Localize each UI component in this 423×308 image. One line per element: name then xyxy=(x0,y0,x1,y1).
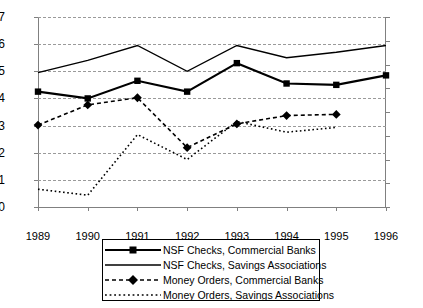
data-point-marker xyxy=(83,100,92,109)
data-point-marker xyxy=(283,80,289,86)
x-axis-label: 1996 xyxy=(363,230,409,242)
y-axis-left-label: 13 xyxy=(0,120,5,132)
data-point-marker xyxy=(35,88,41,94)
y-axis-left-label: 16 xyxy=(0,38,5,50)
data-point-marker xyxy=(282,111,291,120)
y-axis-left-label: 15 xyxy=(0,65,5,77)
series-2 xyxy=(38,46,386,73)
data-point-marker xyxy=(332,110,341,119)
x-axis-label: 1989 xyxy=(15,230,61,242)
legend-key-dashed-diamond xyxy=(103,273,163,287)
legend-label: Money Orders, Commercial Banks xyxy=(163,274,323,286)
legend-key-solid-thick-square xyxy=(103,243,163,257)
x-axis-label: 1995 xyxy=(313,230,359,242)
y-axis-left-label: 17 xyxy=(0,11,5,23)
series-line xyxy=(38,98,336,148)
series-line xyxy=(38,63,386,98)
series-layer xyxy=(38,17,386,208)
series-line xyxy=(38,122,336,196)
data-point-marker xyxy=(383,72,389,78)
y-axis-left-label: 11 xyxy=(0,174,5,186)
series-4 xyxy=(38,122,336,196)
data-point-marker xyxy=(232,119,241,128)
data-point-marker xyxy=(234,60,240,66)
legend-item: NSF Checks, Savings Associations xyxy=(103,258,319,272)
legend-label: NSF Checks, Commercial Banks xyxy=(163,244,316,256)
y-axis-left-label: 12 xyxy=(0,147,5,159)
legend-item: Money Orders, Savings Associations xyxy=(103,288,319,302)
legend-label: Money Orders, Savings Associations xyxy=(163,289,334,301)
data-point-marker xyxy=(134,78,140,84)
legend-item: NSF Checks, Commercial Banks xyxy=(103,243,319,257)
legend-key-dotted xyxy=(103,288,163,302)
legend-item: Money Orders, Commercial Banks xyxy=(103,273,319,287)
data-point-marker xyxy=(184,88,190,94)
chart-container: 1011121314151617 1.51.71.92.12.32.52.72.… xyxy=(0,0,423,308)
series-line xyxy=(38,46,386,73)
x-axis-tick xyxy=(386,207,387,211)
y-axis-left-label: 10 xyxy=(0,201,5,213)
series-1 xyxy=(35,60,389,102)
legend-key-solid-thin xyxy=(103,258,163,272)
data-point-marker xyxy=(34,121,43,130)
chart-legend: NSF Checks, Commercial BanksNSF Checks, … xyxy=(102,239,320,301)
data-point-marker xyxy=(333,82,339,88)
plot-area: 1011121314151617 1.51.71.92.12.32.52.72.… xyxy=(38,17,386,208)
y-axis-left-label: 14 xyxy=(0,92,5,104)
legend-label: NSF Checks, Savings Associations xyxy=(163,259,326,271)
series-3 xyxy=(34,93,341,152)
